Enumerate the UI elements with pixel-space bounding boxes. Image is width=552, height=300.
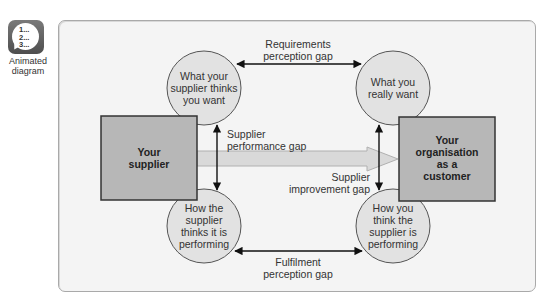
text-line: supplier bbox=[101, 158, 197, 170]
text-line: How you bbox=[356, 202, 430, 214]
text-line: What your bbox=[167, 70, 241, 82]
box-text-your-organisation: Your organisation as a customer bbox=[399, 134, 495, 182]
text-line: performing bbox=[167, 238, 241, 250]
supplier-improvement-gap-label: Supplier improvement gap bbox=[288, 171, 370, 195]
text-line: you want bbox=[167, 94, 241, 106]
text-line: supplier is bbox=[356, 226, 430, 238]
label-line: perception gap bbox=[258, 268, 338, 280]
label-line: Requirements bbox=[258, 38, 338, 50]
label-line: Supplier bbox=[227, 128, 306, 140]
box-text-your-supplier: Your supplier bbox=[101, 146, 197, 170]
circle-text-how-supplier-thinks: How the supplier thinks it is performing bbox=[167, 202, 241, 250]
label-line: performance gap bbox=[227, 140, 306, 152]
text-line: as a bbox=[399, 158, 495, 170]
requirements-gap-label: Requirements perception gap bbox=[258, 38, 338, 62]
label-line: improvement gap bbox=[288, 183, 370, 195]
text-line: supplier bbox=[167, 214, 241, 226]
text-line: thinks it is bbox=[167, 226, 241, 238]
text-line: really want bbox=[356, 88, 430, 100]
text-line: customer bbox=[399, 170, 495, 182]
supplier-performance-gap-label: Supplier performance gap bbox=[227, 128, 306, 152]
text-line: supplier thinks bbox=[167, 82, 241, 94]
label-line: Fulfilment bbox=[258, 256, 338, 268]
label-line: perception gap bbox=[258, 50, 338, 62]
text-line: Your bbox=[399, 134, 495, 146]
text-line: What you bbox=[356, 76, 430, 88]
label-line: Supplier bbox=[288, 171, 370, 183]
text-line: How the bbox=[167, 202, 241, 214]
text-line: organisation bbox=[399, 146, 495, 158]
circle-text-what-you-want: What you really want bbox=[356, 76, 430, 100]
circle-text-how-you-think: How you think the supplier is performing bbox=[356, 202, 430, 250]
text-line: think the bbox=[356, 214, 430, 226]
text-line: Your bbox=[101, 146, 197, 158]
fulfilment-gap-label: Fulfilment perception gap bbox=[258, 256, 338, 280]
circle-text-what-supplier-thinks: What your supplier thinks you want bbox=[167, 70, 241, 106]
text-line: performing bbox=[356, 238, 430, 250]
